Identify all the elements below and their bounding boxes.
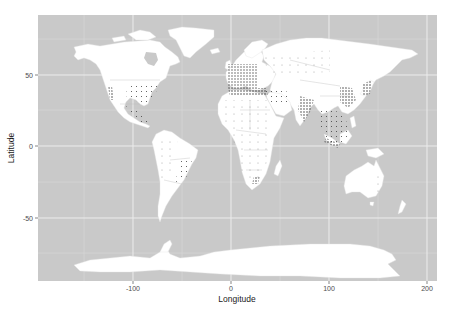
y-tick-label: -50: [23, 215, 33, 222]
x-axis-title: Longitude: [218, 294, 256, 304]
y-tick-label: 0: [29, 143, 33, 150]
data-points: [228, 64, 258, 88]
y-tick-labels: 50 0 -50: [23, 72, 33, 222]
x-tick-labels: -100 0 100 200: [126, 285, 433, 292]
x-tick-label: 0: [229, 285, 233, 292]
points-mediterranean: [228, 88, 268, 96]
x-tick-label: -100: [126, 285, 140, 292]
y-tick-label: 50: [25, 72, 33, 79]
x-tick-label: 100: [323, 285, 335, 292]
points-europe: [228, 64, 258, 88]
y-axis-title: Latitude: [6, 133, 16, 164]
x-tick-label: 200: [421, 285, 433, 292]
world-map-chart: -100 0 100 200 50 0 -50 Longitude Latitu…: [0, 0, 454, 315]
